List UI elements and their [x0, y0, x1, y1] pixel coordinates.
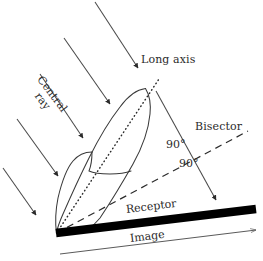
long-axis-label: Long axis	[141, 54, 195, 66]
bisecting-angle-diagram: Long axis Central ray Bisector 90° 90° R…	[0, 0, 263, 261]
xray-beam-arrow-group	[3, 2, 138, 215]
tooth-root-outline	[56, 152, 92, 233]
xray-beam-arrow-2	[64, 38, 110, 104]
central-ray-perpendicular-arrow	[156, 91, 216, 200]
angle-label-lower: 90°	[179, 158, 199, 170]
bisector-label: Bisector	[195, 121, 242, 133]
xray-beam-arrow-1	[95, 2, 138, 68]
angle-label-upper: 90°	[166, 139, 186, 151]
xray-beam-arrow-4	[17, 119, 58, 176]
xray-beam-arrow-5	[3, 168, 36, 215]
tooth-cervical-line	[89, 152, 131, 174]
